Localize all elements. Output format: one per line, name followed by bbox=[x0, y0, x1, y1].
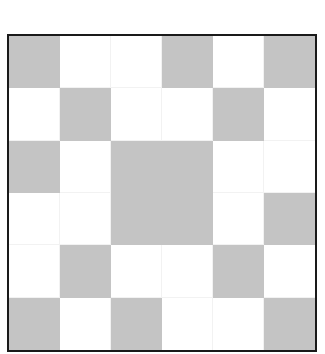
grid-cell-filled bbox=[60, 245, 111, 297]
grid-cell-filled bbox=[264, 36, 315, 88]
grid-cell-empty bbox=[162, 298, 213, 350]
grid-cell-empty bbox=[264, 245, 315, 297]
grid-cell-filled bbox=[9, 298, 60, 350]
grid-cell-empty bbox=[60, 36, 111, 88]
grid-cell-filled bbox=[264, 298, 315, 350]
grid-cell-empty bbox=[213, 141, 264, 193]
grid-cell-filled bbox=[111, 193, 162, 245]
grid-cell-filled bbox=[213, 88, 264, 140]
grid-cell-empty bbox=[213, 36, 264, 88]
grid-cell-empty bbox=[111, 88, 162, 140]
grid-cell-filled bbox=[162, 36, 213, 88]
grid-cell-empty bbox=[162, 88, 213, 140]
grid-cell-filled bbox=[213, 245, 264, 297]
grid-cell-empty bbox=[60, 193, 111, 245]
grid-cell-empty bbox=[60, 298, 111, 350]
grid-cell-empty bbox=[9, 88, 60, 140]
grid-cell-filled bbox=[60, 88, 111, 140]
grid-cell-empty bbox=[9, 193, 60, 245]
grid-cell-empty bbox=[264, 141, 315, 193]
grid-cell-filled bbox=[162, 193, 213, 245]
grid-cell-filled bbox=[264, 193, 315, 245]
grid-cell-empty bbox=[213, 298, 264, 350]
grid-cell-empty bbox=[162, 245, 213, 297]
grid-cell-filled bbox=[9, 36, 60, 88]
grid-cell-empty bbox=[9, 245, 60, 297]
grid-cell-empty bbox=[213, 193, 264, 245]
grid-board bbox=[7, 34, 317, 352]
grid-cell-empty bbox=[111, 245, 162, 297]
grid-cell-filled bbox=[111, 298, 162, 350]
grid-cell-filled bbox=[111, 141, 162, 193]
grid-cell-empty bbox=[264, 88, 315, 140]
grid-cell-filled bbox=[162, 141, 213, 193]
grid-cell-filled bbox=[9, 141, 60, 193]
grid-cell-empty bbox=[60, 141, 111, 193]
grid-cell-empty bbox=[111, 36, 162, 88]
